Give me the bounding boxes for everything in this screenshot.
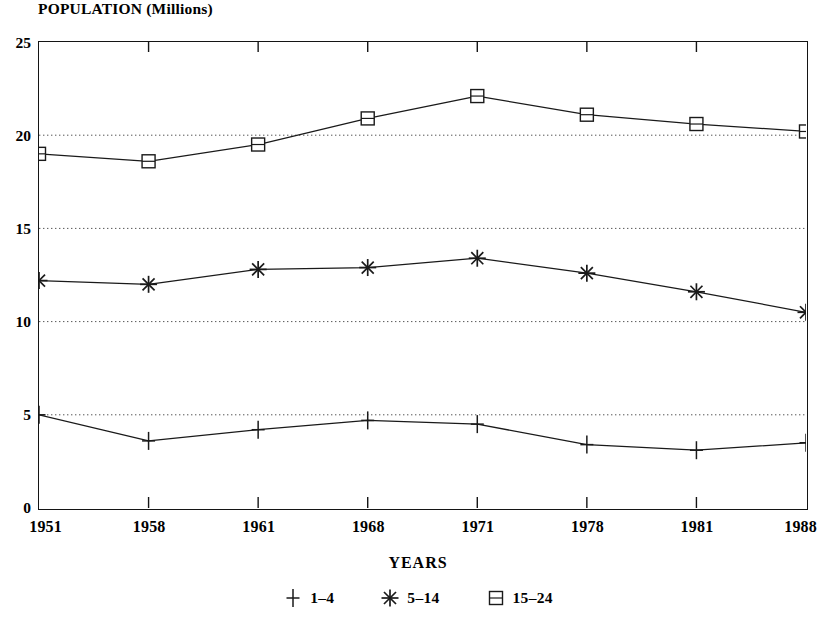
data-point-1-4-1971 (471, 415, 484, 433)
data-point-5-14-1968 (359, 259, 376, 276)
legend-marker-plus-icon (283, 588, 303, 608)
data-point-1-4-1978 (580, 436, 593, 454)
legend-item-15-24: 15–24 (486, 588, 553, 608)
legend-marker-asterisk-icon (380, 588, 400, 608)
x-tick-label-1981: 1981 (681, 518, 714, 536)
x-tick-label-1958: 1958 (133, 518, 166, 536)
data-point-5-14-1981 (688, 283, 705, 300)
population-line-chart: POPULATION (Millions) 0510152025 1951195… (0, 0, 836, 621)
x-axis-caption: YEARS (0, 554, 836, 572)
x-tick-label-1988: 1988 (784, 518, 817, 536)
series-line-1-4 (39, 415, 806, 450)
chart-legend: 1–45–1415–24 (0, 588, 836, 608)
legend-marker-square-barred-icon (486, 588, 506, 608)
legend-label-15-24: 15–24 (513, 589, 553, 607)
plot-area (38, 41, 808, 510)
data-point-1-4-1951 (39, 406, 46, 424)
legend-item-5-14: 5–14 (380, 588, 439, 608)
y-tick-label-10: 10 (16, 313, 32, 331)
legend-item-1-4: 1–4 (283, 588, 334, 608)
y-tick-label-0: 0 (23, 499, 31, 517)
data-point-15-24-1968 (361, 112, 374, 125)
x-tick-label-1951: 1951 (29, 518, 62, 536)
data-point-5-14-1951 (39, 272, 48, 289)
y-tick-label-25: 25 (16, 34, 32, 52)
data-point-15-24-1971 (471, 90, 484, 103)
legend-label-1-4: 1–4 (310, 589, 334, 607)
legend-glyph-1-4 (287, 589, 300, 607)
data-point-1-4-1968 (361, 411, 374, 429)
data-point-5-14-1961 (250, 261, 267, 278)
y-tick-label-20: 20 (16, 127, 32, 145)
legend-label-5-14: 5–14 (407, 589, 439, 607)
data-point-1-4-1981 (690, 441, 703, 459)
data-point-15-24-1978 (580, 108, 593, 121)
data-point-5-14-1988 (798, 304, 807, 321)
data-point-15-24-1981 (690, 118, 703, 131)
data-point-1-4-1958 (142, 432, 155, 450)
x-tick-label-1961: 1961 (242, 518, 275, 536)
legend-glyph-15-24 (489, 592, 502, 605)
data-point-5-14-1971 (469, 250, 486, 267)
legend-glyph-5-14 (382, 590, 399, 607)
x-tick-label-1978: 1978 (571, 518, 604, 536)
x-tick-label-1968: 1968 (352, 518, 385, 536)
data-point-5-14-1978 (578, 265, 595, 282)
data-point-5-14-1958 (140, 276, 157, 293)
y-tick-label-5: 5 (23, 406, 31, 424)
data-point-15-24-1988 (800, 125, 807, 138)
y-axis-tick-labels: 0510152025 (0, 0, 31, 621)
x-tick-label-1971: 1971 (461, 518, 494, 536)
y-axis-caption: POPULATION (Millions) (38, 0, 213, 18)
data-point-1-4-1988 (800, 434, 807, 452)
data-point-15-24-1958 (142, 155, 155, 168)
y-tick-label-15: 15 (16, 220, 32, 238)
data-point-15-24-1961 (252, 138, 265, 151)
data-point-15-24-1951 (39, 147, 46, 160)
data-point-1-4-1961 (252, 421, 265, 439)
plot-canvas (39, 42, 806, 508)
